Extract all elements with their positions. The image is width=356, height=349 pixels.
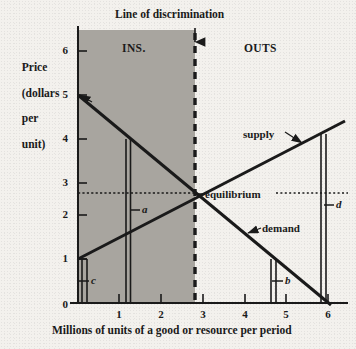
equilibrium-label: equilibrium [205,188,261,200]
x-tick-label-4: 4 [237,308,253,320]
chart-title: Line of discrimination [115,8,224,21]
ins-shaded-region [78,30,195,303]
y-tick-label-3: 3 [54,176,68,188]
y-tick-label-4: 4 [54,132,68,144]
x-tick-label-3: 3 [195,308,211,320]
region-label-outs: OUTS [244,42,277,55]
demand-leader [248,228,261,233]
y-tick-label-6: 6 [54,44,68,56]
marker-bar-d [321,134,326,304]
x-tick-label-6: 6 [320,308,336,320]
supply-curve-label: supply [243,128,274,140]
y-tick-label-5: 5 [54,88,68,100]
marker-label-b: b [285,274,291,286]
region-label-ins: INS. [122,42,146,55]
x-tick-label-5: 5 [278,308,294,320]
y-axis-title-line-4: unit) [22,138,46,150]
y-axis-title-line-1: Price [22,61,48,73]
y-axis-title-line-3: per [22,112,39,124]
x-tick-label-1: 1 [111,308,127,320]
marker-label-d: d [336,198,342,210]
y-tick-label-0: 0 [54,298,68,310]
y-axis-title: Price (dollars per unit) [16,48,59,151]
x-axis-title: Millions of units of a good or resource … [52,324,292,337]
demand-curve-label: demand [262,222,300,234]
x-tick-label-2: 2 [153,308,169,320]
supply-leader [285,132,302,143]
y-tick-label-1: 1 [54,252,68,264]
marker-label-a: a [142,203,148,215]
y-tick-label-2: 2 [54,208,68,220]
marker-label-c: c [91,274,96,286]
